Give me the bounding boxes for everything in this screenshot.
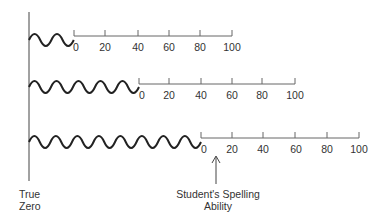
true-zero-label: True Zero (19, 188, 41, 212)
tick-label: 20 (226, 143, 238, 155)
spelling-ability-annotation: Student's Spelling Ability (176, 188, 260, 212)
wavy-break-2 (29, 81, 139, 93)
tick-label: 40 (257, 143, 269, 155)
true-zero-label-line1: True (19, 188, 41, 200)
true-zero-label-line2: Zero (19, 200, 41, 212)
tick-label: 100 (223, 41, 241, 53)
tick-label: 100 (286, 89, 304, 101)
tick-label: 80 (321, 143, 333, 155)
tick-label: 40 (195, 89, 207, 101)
tick-label: 60 (290, 143, 302, 155)
tick-label: 0 (73, 41, 79, 53)
wavy-break-1 (29, 34, 74, 46)
annotation-line2: Ability (176, 200, 260, 212)
scale-row-3 (29, 132, 359, 148)
annotation-line1: Student's Spelling (176, 188, 260, 200)
tick-label: 80 (194, 41, 206, 53)
tick-label: 20 (99, 41, 111, 53)
tick-label: 60 (163, 41, 175, 53)
tick-label: 0 (201, 143, 207, 155)
wavy-break-3 (29, 136, 201, 148)
tick-label: 80 (256, 89, 268, 101)
tick-label: 100 (350, 143, 368, 155)
scale-diagram (0, 0, 386, 220)
tick-label: 0 (139, 89, 145, 101)
tick-label: 40 (132, 41, 144, 53)
tick-label: 20 (163, 89, 175, 101)
scale-row-2 (29, 78, 295, 93)
tick-label: 60 (226, 89, 238, 101)
arrow-icon (212, 156, 220, 184)
